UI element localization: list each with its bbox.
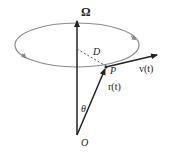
distance-label: D — [92, 46, 101, 57]
rotation-diagram: Ω D P v(t) r(t) θ O — [0, 0, 169, 157]
point-p-dot — [105, 66, 108, 69]
point-label: P — [109, 65, 116, 76]
position-vector-arrow — [77, 69, 105, 135]
velocity-label: v(t) — [139, 63, 153, 75]
omega-label: Ω — [81, 5, 91, 19]
angle-label: θ — [81, 103, 86, 114]
position-label: r(t) — [108, 81, 121, 93]
distance-dashed-line — [77, 49, 106, 66]
origin-label: O — [81, 137, 88, 148]
